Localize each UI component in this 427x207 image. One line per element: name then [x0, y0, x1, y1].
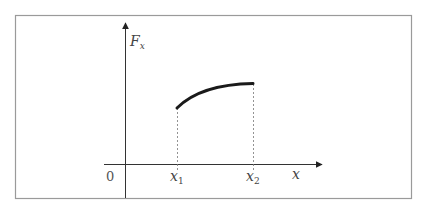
origin-label: 0 — [106, 169, 114, 184]
x1-label-main: x — [170, 168, 178, 184]
x2-label: x2 — [246, 168, 260, 186]
y-axis-label-sub: x — [140, 41, 145, 51]
x-axis-label: x — [292, 166, 300, 182]
x1-label: x1 — [170, 168, 184, 186]
y-axis-label: Fx — [129, 33, 145, 51]
x2-label-main: x — [246, 168, 254, 184]
x1-label-sub: 1 — [178, 176, 184, 186]
x2-label-sub: 2 — [254, 176, 260, 186]
force-curve — [177, 84, 253, 109]
force-position-diagram: Fx 0 x1 x2 x — [0, 0, 427, 207]
frame-border — [16, 16, 412, 199]
